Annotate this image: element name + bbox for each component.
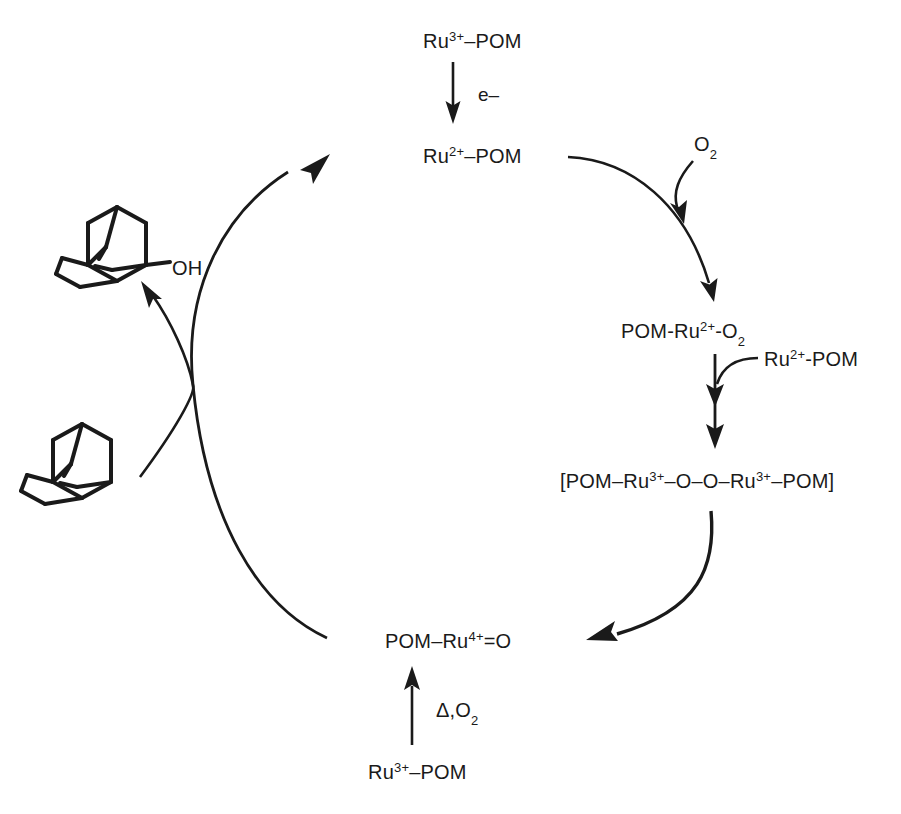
label-ru2-pom-side: Ru2+-POM <box>764 347 858 371</box>
label-pom-ru4-oxo: POM–Ru4+=O <box>385 629 511 653</box>
label-ru3-pom-bottom: Ru3+–POM <box>368 760 467 784</box>
arrow-thermal-reoxidation <box>404 666 420 745</box>
scheme-canvas: Ru3+–POM e– Ru2+–POM O2 POM-Ru2+-O2 <box>0 0 901 814</box>
arrow-product-release <box>140 281 193 477</box>
arrow-ru2-pom-feed <box>717 358 758 384</box>
structure-adamantane <box>21 424 111 504</box>
label-heat-oxygen: Δ,O2 <box>436 699 479 728</box>
arrow-oxygen-binding <box>568 157 718 302</box>
label-o2: O2 <box>694 133 717 162</box>
label-pom-ru2-o2: POM-Ru2+-O2 <box>621 319 745 349</box>
label-ru3-pom-top: Ru3+–POM <box>423 29 522 53</box>
arrow-o2-feed <box>670 161 693 224</box>
label-oh-substituent: OH <box>172 257 202 279</box>
arrow-dimerization-double <box>706 354 724 449</box>
arc-cycle-left <box>192 154 330 638</box>
arrow-electron-reduction <box>446 62 461 124</box>
label-ru2-pom-top: Ru2+–POM <box>423 144 522 168</box>
arrow-oxo-formation <box>586 511 712 641</box>
reaction-scheme-diagram: Ru3+–POM e– Ru2+–POM O2 POM-Ru2+-O2 <box>0 0 901 814</box>
label-electron: e– <box>478 84 500 105</box>
structure-adamantanol: OH <box>56 207 202 287</box>
label-peroxo-bracket: [POM–Ru3+–O–O–Ru3+–POM] <box>560 469 834 493</box>
